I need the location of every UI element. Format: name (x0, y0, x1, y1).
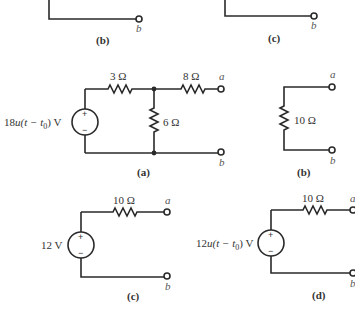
source-label: 18u(t − t0) V (4, 116, 61, 131)
caption: (b) (96, 34, 110, 47)
terminal-label-b: b (350, 277, 355, 289)
caption: (d) (312, 289, 326, 302)
resistor-label: 10 Ω (302, 192, 324, 204)
plus-sign: + (78, 232, 83, 242)
terminal-label-a: a (350, 192, 355, 204)
resistor-10-ohm-icon (271, 206, 350, 214)
terminal-label-a: a (165, 194, 171, 206)
resistor-label: 3 Ω (110, 70, 126, 82)
resistor-label: 10 Ω (113, 194, 135, 206)
resistor-3-ohm-icon (85, 85, 154, 93)
minus-sign: − (78, 248, 83, 258)
minus-sign: − (268, 246, 273, 256)
terminal-label-b: b (219, 156, 225, 168)
resistor-10-ohm-icon (81, 208, 164, 216)
minus-sign: − (82, 125, 87, 135)
terminal-label-b: b (136, 22, 142, 34)
terminal-b (329, 147, 335, 153)
terminal-label-b: b (330, 154, 336, 166)
terminal-b (164, 273, 170, 279)
circuit-a: + − 18u(t − t0) V 3 Ω 6 Ω 8 Ω a b (a) (4, 70, 225, 179)
terminal-a (164, 209, 170, 215)
junction-dot (152, 87, 157, 92)
terminal-a (218, 86, 224, 92)
plus-sign: + (268, 230, 273, 240)
resistor-label: 8 Ω (183, 70, 199, 82)
terminal-a (329, 84, 335, 90)
resistor-6-ohm-icon (150, 89, 158, 153)
circuit-d: + − 12u(t − t0) V 10 Ω a b (d) (196, 192, 355, 302)
terminal-label-a: a (330, 68, 336, 80)
top-partial-right: b (c) (225, 0, 317, 45)
top-partial-left: b (b) (49, 0, 142, 47)
circuit-b: 10 Ω a b (b) (280, 68, 336, 179)
terminal-label-b: b (165, 280, 171, 292)
junction-dot (152, 151, 157, 156)
circuit-figure: b (b) b (c) + − 18u(t − t0) V 3 Ω 6 Ω 8 … (0, 0, 355, 314)
source-label: 12u(t − t0) V (196, 237, 253, 252)
source-label: 12 V (41, 239, 63, 251)
terminal-label-b: b (311, 19, 317, 31)
resistor-8-ohm-icon (154, 85, 218, 93)
resistor-label: 10 Ω (294, 114, 316, 126)
terminal-label-a: a (219, 70, 225, 82)
caption: (c) (127, 290, 140, 303)
plus-sign: + (82, 109, 87, 119)
caption: (c) (268, 32, 281, 45)
caption: (b) (297, 166, 311, 179)
caption: (a) (137, 166, 150, 179)
terminal-a (350, 207, 355, 213)
terminal-b (218, 149, 224, 155)
circuit-c: + − 12 V 10 Ω a b (c) (41, 194, 171, 303)
terminal-b (350, 270, 355, 276)
resistor-label: 6 Ω (163, 116, 179, 128)
